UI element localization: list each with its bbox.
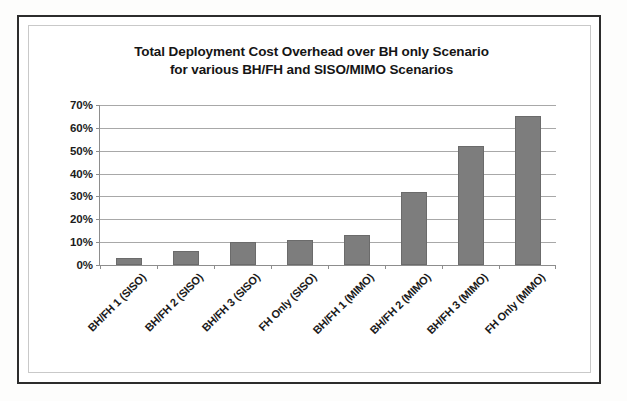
plot-area — [99, 105, 556, 266]
chart-title-line-2: for various BH/FH and SISO/MIMO Scenario… — [49, 61, 574, 79]
bar-slot — [499, 105, 556, 265]
bar-slot — [385, 105, 442, 265]
x-axis-category-label: BH/FH 1 (MIMO) — [311, 271, 376, 336]
x-axis-tick-mark — [555, 265, 556, 269]
bar[interactable] — [287, 240, 313, 265]
y-axis-tick-mark — [96, 128, 100, 129]
bar[interactable] — [116, 258, 142, 265]
y-axis-tick-labels: 70%60%50%40%30%20%10%0% — [43, 105, 93, 265]
y-axis-tick-mark — [96, 242, 100, 243]
bar[interactable] — [401, 192, 427, 265]
bar-slot — [271, 105, 328, 265]
y-axis-tick-mark — [96, 151, 100, 152]
y-axis-tick-mark — [96, 219, 100, 220]
bar-slot — [328, 105, 385, 265]
y-axis-tick-mark — [96, 174, 100, 175]
x-axis-category-label: BH/FH 1 (SISO) — [85, 271, 148, 334]
y-axis-tick-mark — [96, 265, 100, 266]
y-axis-tick-label: 50% — [43, 145, 93, 157]
x-axis-category-labels: BH/FH 1 (SISO)BH/FH 2 (SISO)BH/FH 3 (SIS… — [99, 267, 555, 362]
bar-slot — [157, 105, 214, 265]
x-axis-category-label: BH/FH 3 (MIMO) — [425, 271, 490, 336]
y-axis-tick-label: 40% — [43, 168, 93, 180]
y-axis-tick-label: 20% — [43, 213, 93, 225]
x-axis-category-label: FH Only (MIMO) — [482, 271, 547, 336]
y-axis-tick-mark — [96, 105, 100, 106]
x-axis-category-label: FH Only (SISO) — [257, 271, 319, 333]
scanned-page: Total Deployment Cost Overhead over BH o… — [0, 0, 627, 401]
bar[interactable] — [230, 242, 256, 265]
bar[interactable] — [344, 235, 370, 265]
chart-title: Total Deployment Cost Overhead over BH o… — [49, 43, 574, 79]
x-axis-category-label: BH/FH 2 (SISO) — [142, 271, 205, 334]
chart-figure: Total Deployment Cost Overhead over BH o… — [19, 17, 603, 386]
bar-slot — [100, 105, 157, 265]
y-axis-tick-label: 60% — [43, 122, 93, 134]
figure-outer-border: Total Deployment Cost Overhead over BH o… — [17, 15, 601, 384]
y-axis-tick-label: 30% — [43, 190, 93, 202]
y-axis-tick-label: 10% — [43, 236, 93, 248]
y-axis-tick-label: 0% — [43, 259, 93, 271]
y-axis-tick-label: 70% — [43, 99, 93, 111]
bar[interactable] — [515, 116, 541, 265]
bar-series — [100, 105, 556, 265]
x-axis-category-label: BH/FH 2 (MIMO) — [368, 271, 433, 336]
bar-slot — [442, 105, 499, 265]
chart-title-line-1: Total Deployment Cost Overhead over BH o… — [49, 43, 574, 61]
x-axis-category-label: BH/FH 3 (SISO) — [199, 271, 262, 334]
y-axis-tick-mark — [96, 196, 100, 197]
bar-slot — [214, 105, 271, 265]
bar[interactable] — [173, 251, 199, 265]
bar[interactable] — [458, 146, 484, 265]
